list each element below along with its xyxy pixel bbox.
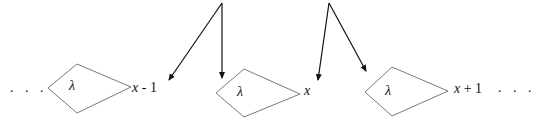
diagram-canvas (0, 0, 533, 125)
node-symbol-1: λ (237, 85, 243, 99)
node-label-suffix-0: - 1 (138, 80, 157, 95)
arrow-2b (329, 3, 366, 71)
lambda-chain-diagram: . . . λ x - 1 λ x λ x + 1 . . . (0, 0, 533, 125)
left-ellipsis: . . . (10, 81, 48, 95)
node-shape-0 (48, 64, 131, 113)
node-shape-1 (216, 69, 300, 117)
node-label-0: x - 1 (132, 81, 157, 95)
node-symbol-2: λ (385, 84, 391, 98)
node-shape-2 (365, 67, 448, 116)
node-label-var-1: x (304, 83, 310, 98)
node-symbol-0: λ (69, 79, 75, 93)
node-label-1: x (304, 84, 310, 98)
right-ellipsis: . . . (498, 81, 533, 95)
arrow-1a (169, 3, 222, 80)
arrow-2a (318, 3, 329, 80)
node-label-2: x + 1 (454, 82, 482, 96)
node-label-suffix-2: + 1 (460, 81, 482, 96)
